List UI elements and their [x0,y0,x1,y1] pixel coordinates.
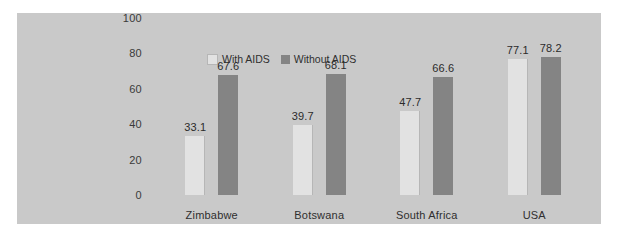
bar-rect [508,59,528,195]
bar-value-label: 33.1 [184,121,206,133]
bar-group: 77.178.2 [479,18,587,195]
y-axis-tick-label: 100 [123,12,142,24]
bar-value-label: 68.1 [325,59,347,71]
bar-group: 39.768.1 [264,18,372,195]
bar-rect [293,125,313,195]
bar-rect [400,111,420,195]
bar-value-label: 78.2 [540,42,562,54]
bar-value-label: 47.7 [399,96,421,108]
bar-without-aids[interactable]: 78.2 [541,18,561,195]
bar-group: 33.167.6 [156,18,264,195]
bar-with-aids[interactable]: 33.1 [185,18,205,195]
bar-rect [326,74,346,195]
bar-without-aids[interactable]: 66.6 [433,18,453,195]
category-label: Zimbabwe [186,209,238,221]
bar-rect [218,75,238,195]
bar-value-label: 66.6 [432,62,454,74]
bar-rect [433,77,453,195]
bar-value-label: 77.1 [507,44,529,56]
y-axis-tick-label: 0 [136,189,142,201]
chart-panel: 020406080100 With AIDSWithout AIDS 33.16… [17,13,601,224]
bar-value-label: 67.6 [217,60,239,72]
chart-page: 020406080100 With AIDSWithout AIDS 33.16… [0,0,620,237]
bar-rect [541,57,561,195]
x-axis-category-labels: ZimbabweBotswanaSouth AfricaUSA [156,195,586,219]
category-label: South Africa [396,209,458,221]
bar-value-label: 39.7 [292,110,314,122]
y-axis-tick-label: 60 [129,83,142,95]
bar-with-aids[interactable]: 77.1 [508,18,528,195]
plot-area: 33.167.639.768.147.766.677.178.2 [156,18,586,195]
y-axis: 020406080100 [17,18,156,195]
y-axis-tick-label: 80 [129,47,142,59]
y-axis-tick-label: 20 [129,154,142,166]
bar-with-aids[interactable]: 47.7 [400,18,420,195]
bar-with-aids[interactable]: 39.7 [293,18,313,195]
y-axis-tick-label: 40 [129,118,142,130]
bar-without-aids[interactable]: 68.1 [326,18,346,195]
bar-rect [185,136,205,195]
category-label: USA [523,209,546,221]
bar-group: 47.766.6 [371,18,479,195]
bar-without-aids[interactable]: 67.6 [218,18,238,195]
category-label: Botswana [294,209,344,221]
